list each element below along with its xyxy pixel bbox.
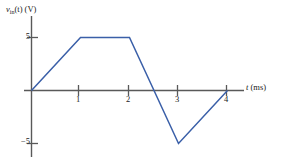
x-axis-label-rest: (ms) (251, 82, 267, 92)
y-tick-label-minus5: −5 (10, 136, 30, 146)
x-tick-label-2: 2 (121, 94, 135, 104)
x-axis-label-var: t (246, 82, 248, 92)
x-tick-label-1: 1 (71, 94, 85, 104)
y-axis-label: vin(t) (V) (6, 4, 36, 15)
waveform-figure: vin(t) (V) t (ms) 5 −5 1 2 3 4 (0, 0, 285, 165)
y-axis-label-rest: (t) (V) (14, 4, 36, 14)
plot-canvas (0, 0, 285, 165)
x-tick-label-3: 3 (170, 94, 184, 104)
y-tick-label-5: 5 (18, 31, 30, 41)
x-tick-label-4: 4 (219, 94, 233, 104)
x-axis-label: t (ms) (246, 82, 266, 92)
